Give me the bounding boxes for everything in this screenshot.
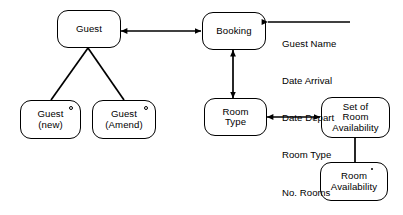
node-set-of-room-availability-label: Set of Room Availability <box>332 102 378 133</box>
node-room-type[interactable]: Room Type <box>204 98 267 136</box>
node-room-type-label: Room Type <box>223 107 249 128</box>
booking-attribute-list: Guest Name Date Arrival Date Depart Room… <box>282 13 336 215</box>
attribute-item-room-type: Room Type <box>282 149 336 161</box>
node-guest-label: Guest <box>76 24 102 34</box>
node-guest[interactable]: Guest <box>57 10 121 48</box>
node-room-availability-label: Room Availability <box>331 171 377 192</box>
node-guest-amend-label: Guest (Amend) <box>105 109 143 130</box>
diagram-canvas: Guest Guest (new) Guest (Amend) Booking … <box>0 0 403 215</box>
node-guest-new-label: Guest (new) <box>37 109 63 130</box>
attribute-item-date-depart: Date Depart <box>282 112 336 124</box>
connector-guest-guest-new <box>51 48 88 100</box>
node-booking[interactable]: Booking <box>202 12 266 50</box>
attribute-item-no-rooms: No. Rooms <box>282 187 336 199</box>
attribute-item-guest-name: Guest Name <box>282 38 336 50</box>
node-booking-label: Booking <box>216 26 251 36</box>
connector-guest-guest-amend <box>88 48 124 100</box>
attribute-item-date-arrival: Date Arrival <box>282 75 336 87</box>
